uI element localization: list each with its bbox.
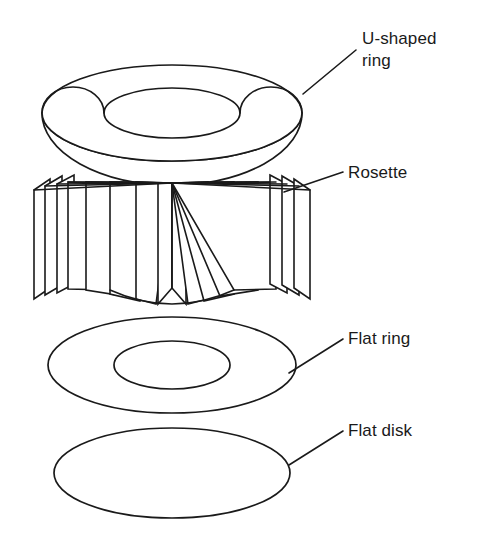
rosette-panel-center-left [158,183,172,304]
label-u-shaped-ring-line2: ring [362,51,391,70]
flat-ring-inner-ellipse [114,341,230,389]
flat-ring-component [48,317,296,413]
rosette-component [34,175,310,304]
assembly-figure: U-shaped ring Rosette Flat ring Flat dis… [0,0,483,551]
label-u-shaped-ring-line1: U-shaped [362,29,437,48]
label-flat-ring: Flat ring [348,329,410,348]
leader-line-flat-ring [289,339,343,373]
rosette-spoke-7 [136,182,172,183]
labels-group: U-shaped ring Rosette Flat ring Flat dis… [348,29,437,440]
exploded-assembly-diagram: U-shaped ring Rosette Flat ring Flat dis… [0,0,483,551]
u-shaped-ring-component [42,65,302,185]
leader-line-u-shaped-ring [303,50,356,94]
label-flat-disk: Flat disk [348,421,413,440]
label-rosette: Rosette [348,163,407,182]
flat-disk-ellipse [54,428,290,518]
leader-line-flat-disk [289,431,343,465]
rosette-panel-right-1 [294,179,310,299]
u-shaped-ring-inner-ellipse [104,88,240,138]
flat-disk-component [54,428,290,518]
